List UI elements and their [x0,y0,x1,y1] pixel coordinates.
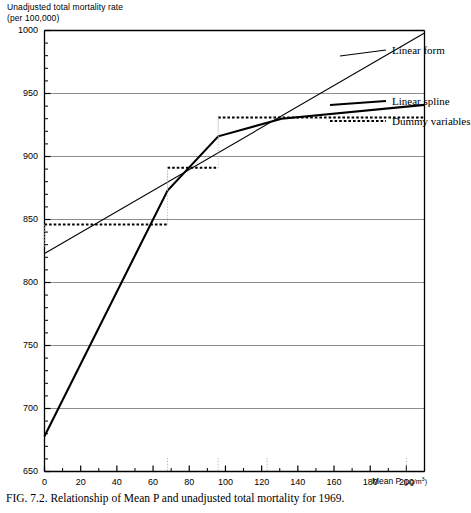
plot-frame [45,31,425,472]
y-tick-label: 700 [4,403,38,413]
x-tick-label: 20 [66,477,96,487]
x-tick-label: 80 [174,477,204,487]
y-tick-label: 750 [4,340,38,350]
gridlines-group [45,31,425,409]
legend-label-linear-spline: Linear spline [392,95,450,107]
x-tick-label: 160 [319,477,349,487]
y-tick-label: 650 [4,466,38,476]
y-axis-title-line2: (per 100,000) [7,13,59,24]
x-tick-label: 180 [355,477,385,487]
legend-leader-1 [340,50,386,56]
x-tick-label: 40 [102,477,132,487]
y-tick-label: 850 [4,214,38,224]
x-tick-label: 0 [30,477,60,487]
series-line [45,105,425,436]
x-tick-label: 200 [391,477,421,487]
y-tick-label: 800 [4,277,38,287]
legend-label-dummy-variables: Dummy variables [392,115,471,127]
y-tick-label: 950 [4,88,38,98]
y-axis-title-line1: Unadjusted total mortality rate [7,2,123,13]
y-tick-label: 1000 [4,25,38,35]
x-tick-label: 120 [247,477,277,487]
series-line [45,33,425,254]
x-tick-label: 140 [283,477,313,487]
x-tick-label: 100 [210,477,240,487]
x-tick-label: 60 [138,477,168,487]
x-axis-unit-suffix: ) [425,478,427,485]
figure-caption: FIG. 7.2. Relationship of Mean P and una… [6,492,344,504]
y-tick-label: 900 [4,151,38,161]
legend-label-linear-form: Linear form [392,44,445,56]
legend-leader-2 [330,101,386,105]
x-axis-ticks [45,466,425,472]
